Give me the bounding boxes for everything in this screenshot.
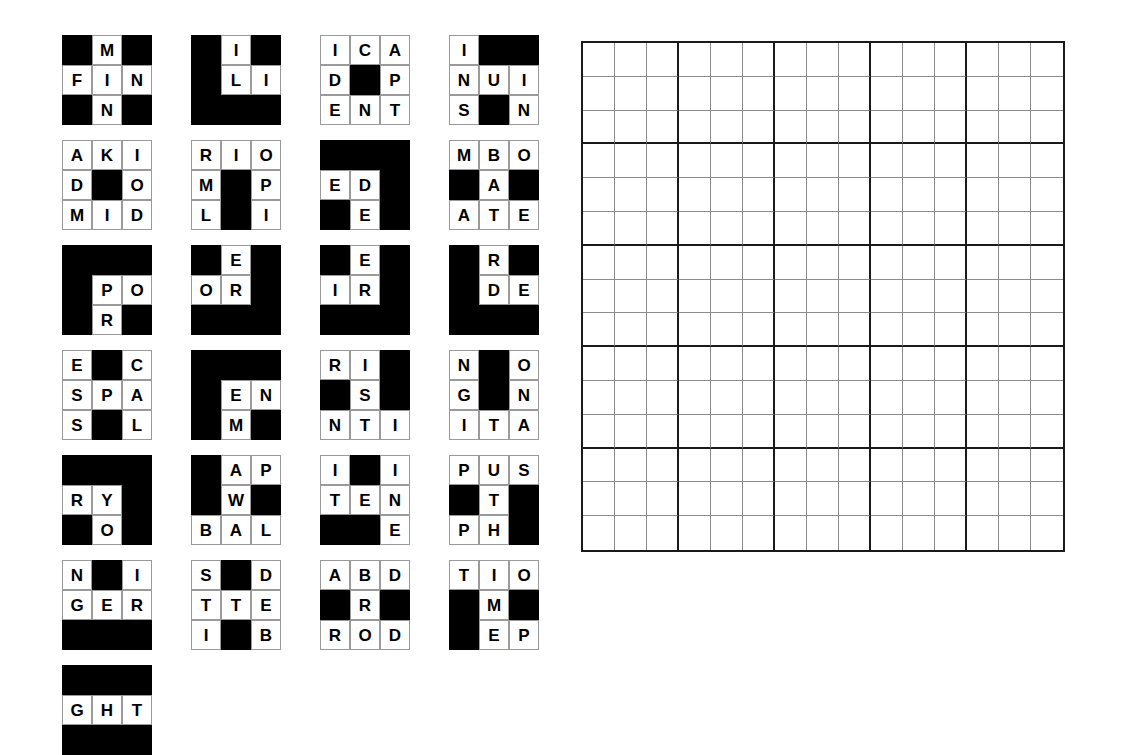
answer-grid-cell[interactable] — [839, 111, 871, 145]
answer-grid-cell[interactable] — [807, 516, 839, 550]
answer-grid-cell[interactable] — [871, 212, 903, 246]
answer-grid-cell[interactable] — [711, 516, 743, 550]
answer-grid-cell[interactable] — [711, 415, 743, 449]
answer-grid-cell[interactable] — [647, 280, 679, 314]
answer-grid-cell[interactable] — [903, 381, 935, 415]
answer-grid-cell[interactable] — [903, 111, 935, 145]
answer-grid-cell[interactable] — [903, 516, 935, 550]
answer-grid-cell[interactable] — [583, 381, 615, 415]
answer-grid-cell[interactable] — [679, 246, 711, 280]
answer-grid-cell[interactable] — [679, 178, 711, 212]
answer-grid-cell[interactable] — [775, 482, 807, 516]
answer-grid-cell[interactable] — [775, 313, 807, 347]
answer-grid-cell[interactable] — [967, 144, 999, 178]
answer-grid-cell[interactable] — [615, 77, 647, 111]
answer-grid-cell[interactable] — [743, 347, 775, 381]
puzzle-piece[interactable]: NOGNITA — [449, 350, 539, 440]
puzzle-piece[interactable]: ILI — [191, 35, 281, 125]
puzzle-piece[interactable]: RDE — [449, 245, 539, 335]
answer-grid-cell[interactable] — [615, 313, 647, 347]
answer-grid-cell[interactable] — [775, 43, 807, 77]
answer-grid-cell[interactable] — [583, 178, 615, 212]
answer-grid-cell[interactable] — [711, 111, 743, 145]
answer-grid-cell[interactable] — [679, 381, 711, 415]
answer-grid-cell[interactable] — [807, 178, 839, 212]
answer-grid-cell[interactable] — [743, 212, 775, 246]
answer-grid-cell[interactable] — [583, 246, 615, 280]
answer-grid-cell[interactable] — [807, 280, 839, 314]
answer-grid-cell[interactable] — [1031, 415, 1063, 449]
answer-grid-cell[interactable] — [583, 111, 615, 145]
answer-grid-cell[interactable] — [807, 313, 839, 347]
answer-grid-cell[interactable] — [999, 313, 1031, 347]
puzzle-piece[interactable]: SDTTEIB — [191, 560, 281, 650]
answer-grid-cell[interactable] — [903, 280, 935, 314]
answer-grid-cell[interactable] — [935, 313, 967, 347]
answer-grid-cell[interactable] — [647, 381, 679, 415]
answer-grid-cell[interactable] — [935, 77, 967, 111]
answer-grid-cell[interactable] — [839, 246, 871, 280]
answer-grid-cell[interactable] — [1031, 482, 1063, 516]
puzzle-piece[interactable]: TIOMEP — [449, 560, 539, 650]
answer-grid-cell[interactable] — [903, 449, 935, 483]
answer-grid-cell[interactable] — [583, 415, 615, 449]
answer-grid-cell[interactable] — [999, 212, 1031, 246]
answer-grid-cell[interactable] — [711, 449, 743, 483]
answer-grid-cell[interactable] — [999, 144, 1031, 178]
puzzle-piece[interactable]: ECSPASL — [62, 350, 152, 440]
answer-grid-cell[interactable] — [775, 246, 807, 280]
answer-grid-cell[interactable] — [615, 111, 647, 145]
answer-grid-cell[interactable] — [935, 415, 967, 449]
answer-grid-cell[interactable] — [839, 144, 871, 178]
answer-grid-cell[interactable] — [647, 144, 679, 178]
answer-grid-cell[interactable] — [999, 347, 1031, 381]
puzzle-piece[interactable]: AKIDOMID — [62, 140, 152, 230]
answer-grid-cell[interactable] — [615, 415, 647, 449]
answer-grid-cell[interactable] — [871, 144, 903, 178]
answer-grid-cell[interactable] — [903, 313, 935, 347]
answer-grid-cell[interactable] — [775, 111, 807, 145]
answer-grid-cell[interactable] — [839, 516, 871, 550]
answer-grid-cell[interactable] — [839, 347, 871, 381]
answer-grid-cell[interactable] — [743, 178, 775, 212]
answer-grid-cell[interactable] — [679, 347, 711, 381]
answer-grid-cell[interactable] — [647, 516, 679, 550]
answer-grid-cell[interactable] — [935, 516, 967, 550]
answer-grid-cell[interactable] — [935, 212, 967, 246]
puzzle-piece[interactable]: GHT — [62, 665, 152, 755]
answer-grid-cell[interactable] — [807, 449, 839, 483]
answer-grid-cell[interactable] — [583, 482, 615, 516]
answer-grid-cell[interactable] — [967, 482, 999, 516]
answer-grid-cell[interactable] — [583, 516, 615, 550]
answer-grid-cell[interactable] — [743, 144, 775, 178]
answer-grid-cell[interactable] — [679, 313, 711, 347]
answer-grid-cell[interactable] — [967, 347, 999, 381]
answer-grid-cell[interactable] — [743, 381, 775, 415]
answer-grid-cell[interactable] — [807, 482, 839, 516]
answer-grid-cell[interactable] — [807, 144, 839, 178]
answer-grid-cell[interactable] — [775, 212, 807, 246]
answer-grid-cell[interactable] — [871, 313, 903, 347]
answer-grid-cell[interactable] — [615, 212, 647, 246]
puzzle-piece[interactable]: IITENE — [320, 455, 410, 545]
answer-grid-cell[interactable] — [903, 144, 935, 178]
puzzle-piece[interactable]: PUSTPH — [449, 455, 539, 545]
answer-grid-cell[interactable] — [679, 77, 711, 111]
answer-grid-cell[interactable] — [615, 144, 647, 178]
answer-grid[interactable] — [581, 41, 1065, 552]
answer-grid-cell[interactable] — [871, 178, 903, 212]
answer-grid-cell[interactable] — [999, 246, 1031, 280]
answer-grid-cell[interactable] — [775, 449, 807, 483]
answer-grid-cell[interactable] — [935, 43, 967, 77]
answer-grid-cell[interactable] — [711, 381, 743, 415]
answer-grid-cell[interactable] — [1031, 111, 1063, 145]
answer-grid-cell[interactable] — [967, 246, 999, 280]
answer-grid-cell[interactable] — [679, 482, 711, 516]
answer-grid-cell[interactable] — [1031, 144, 1063, 178]
puzzle-piece[interactable]: RISNTI — [320, 350, 410, 440]
answer-grid-cell[interactable] — [871, 449, 903, 483]
answer-grid-cell[interactable] — [935, 449, 967, 483]
answer-grid-cell[interactable] — [903, 178, 935, 212]
answer-grid-cell[interactable] — [679, 111, 711, 145]
answer-grid-cell[interactable] — [871, 415, 903, 449]
